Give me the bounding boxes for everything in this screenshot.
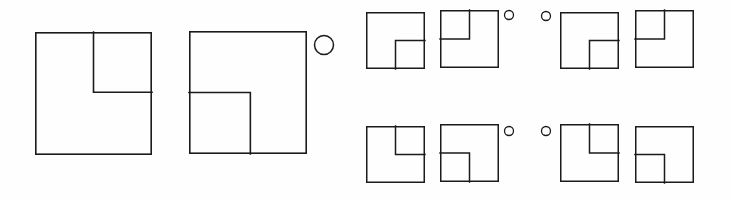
small-square-inset-bottom-left [440,125,498,182]
inner-square-bottom-right [590,41,620,70]
small-square-inset-bottom-left [635,127,693,183]
small-square-inset-top-left [440,10,498,67]
diagram-canvas [0,0,730,201]
small-square-inset-bottom-right [367,13,425,69]
marker-circle-right-of-figure [505,127,514,136]
inner-square-bottom-left [635,155,665,184]
inner-square-bottom-left [189,93,250,155]
marker-circle-left-of-figure [542,12,551,21]
marker-circle-left-of-figure [542,127,551,136]
large-square-inset-bottom-left [189,32,306,154]
inner-square-top-right [94,32,153,92]
inner-square-top-left [635,10,665,39]
marker-circle-right-of-figure [505,11,514,20]
small-square-inset-top-right [367,126,425,182]
large-square-inset-top-right [36,32,152,154]
diagram-svg [0,0,730,201]
inner-square-bottom-right [396,41,426,70]
small-square-inset-top-right [561,124,619,181]
inner-square-bottom-left [440,153,470,182]
figures-layer [36,10,693,183]
small-square-inset-top-left [635,10,693,67]
inner-square-top-right [590,124,620,153]
small-square-inset-bottom-right [561,13,619,69]
inner-square-top-right [396,126,426,155]
inner-square-top-left [440,10,470,39]
marker-circle-right-of-figure [315,36,334,55]
